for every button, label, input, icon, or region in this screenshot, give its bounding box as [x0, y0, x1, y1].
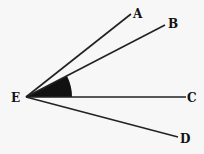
ray-ea [26, 14, 131, 97]
label-c: C [187, 91, 197, 105]
ray-ed [26, 97, 178, 137]
label-e: E [11, 91, 20, 105]
ray-eb [26, 25, 165, 97]
label-a: A [132, 7, 143, 21]
angle-diagram: A B C D E [0, 0, 204, 154]
label-b: B [168, 17, 178, 31]
label-d: D [180, 132, 190, 146]
